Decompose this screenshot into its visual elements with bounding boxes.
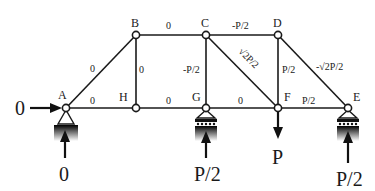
node-label-E: E <box>353 90 360 104</box>
force-label-HG: 0 <box>166 95 171 106</box>
node-label-G: G <box>192 90 201 104</box>
node-label-F: F <box>284 90 291 104</box>
force-label-AH: 0 <box>90 95 95 106</box>
node-A <box>62 104 69 111</box>
load-label-G: P/2 <box>194 163 221 185</box>
node-F <box>274 104 281 111</box>
load-label-A-vertical: 0 <box>59 163 69 185</box>
node-E <box>344 104 351 111</box>
load-label-F: P <box>272 146 283 168</box>
force-label-GF: 0 <box>238 95 243 106</box>
node-D <box>274 31 281 38</box>
node-H <box>132 104 139 111</box>
node-label-C: C <box>201 16 209 30</box>
node-label-H: H <box>119 90 128 104</box>
node-label-B: B <box>131 16 139 30</box>
force-label-BH: 0 <box>139 64 144 75</box>
force-label-DE: -√2P/2 <box>316 61 343 72</box>
node-label-A: A <box>58 88 67 102</box>
force-label-CF: √2P/2 <box>237 46 262 71</box>
force-label-BC: 0 <box>166 20 171 31</box>
load-label-E: P/2 <box>336 168 363 190</box>
arrow-F-load <box>273 112 283 139</box>
node-label-D: D <box>273 16 282 30</box>
truss-diagram: A B C D H G F E 0 0 0 0 0 -P/2 -P/2 √2P/… <box>0 0 375 191</box>
node-B <box>132 31 139 38</box>
force-label-CG: -P/2 <box>183 64 200 75</box>
arrow-A-horizontal <box>30 103 62 113</box>
force-label-AB: 0 <box>90 63 95 74</box>
load-label-A-horizontal: 0 <box>15 97 25 119</box>
force-label-CD: -P/2 <box>232 20 249 31</box>
node-C <box>202 31 209 38</box>
force-label-DF: P/2 <box>282 64 295 75</box>
force-label-FE: P/2 <box>302 95 315 106</box>
node-G <box>202 104 209 111</box>
